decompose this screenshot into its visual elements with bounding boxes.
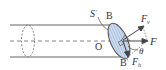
force-h-label: Fh <box>131 56 141 68</box>
tube-diagram: S' B O B' Fv F θ Fh <box>0 0 166 70</box>
force-v-arrow <box>123 28 141 40</box>
theta-label: θ <box>139 46 144 56</box>
force-label: F <box>149 35 157 47</box>
origin-label: O <box>95 41 102 52</box>
component-dash-2 <box>129 41 147 56</box>
force-v-label: Fv <box>140 13 150 25</box>
component-dash-1 <box>143 27 147 40</box>
b-top-label: B <box>106 10 113 21</box>
s-prime-label: S' <box>90 8 97 19</box>
b-bottom-label: B' <box>120 57 128 68</box>
